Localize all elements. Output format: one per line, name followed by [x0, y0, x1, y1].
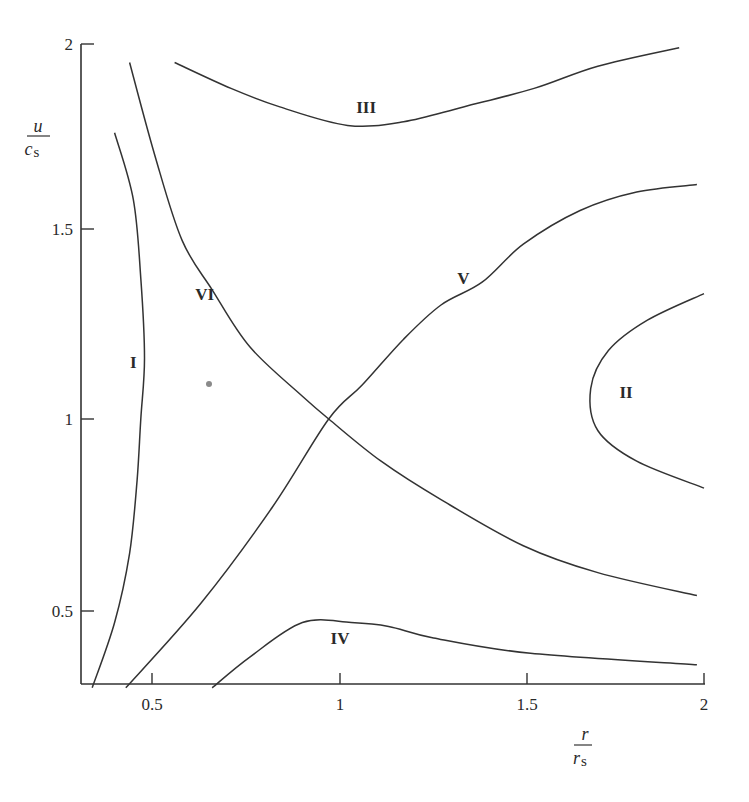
curve-label-vi: VI	[195, 285, 214, 304]
y-ticks: 0.511.52	[52, 35, 94, 621]
y-tick-label: 0.5	[52, 602, 73, 621]
y-tick-label: 1.5	[52, 220, 73, 239]
y-tick-label: 1	[65, 410, 74, 429]
curve-ii	[590, 294, 704, 489]
curve-labels: IIIIIIIVVVI	[130, 98, 633, 648]
curve-label-iii: III	[356, 98, 376, 117]
y-label-numerator: u	[34, 116, 43, 136]
curve-label-iv: IV	[331, 629, 351, 648]
x-axis-label: r rs	[573, 724, 592, 769]
x-axis: 0.511.52	[81, 673, 708, 714]
curve-i	[92, 133, 144, 688]
x-tick-label: 1.5	[516, 695, 537, 714]
curves	[92, 48, 704, 688]
curve-label-v: V	[457, 269, 470, 288]
curve-v	[126, 185, 697, 688]
x-tick-label: 1	[336, 695, 345, 714]
y-label-denominator: cs	[25, 139, 40, 160]
curve-label-i: I	[130, 353, 137, 372]
curve-label-ii: II	[620, 383, 634, 402]
chart: 0.511.52 0.511.52 u cs r rs IIIIIIIVVVI	[0, 0, 749, 802]
x-tick-label: 0.5	[141, 695, 162, 714]
x-label-denominator: rs	[573, 748, 587, 769]
y-axis: 0.511.52	[52, 35, 94, 684]
curve-iv	[212, 620, 697, 688]
y-axis-label: u cs	[25, 116, 50, 160]
x-label-numerator: r	[581, 724, 589, 744]
y-tick-label: 2	[65, 35, 74, 54]
curve-iii	[175, 48, 680, 127]
x-tick-label: 2	[700, 695, 709, 714]
scan-speck	[206, 381, 212, 387]
x-ticks: 0.511.52	[141, 673, 708, 714]
